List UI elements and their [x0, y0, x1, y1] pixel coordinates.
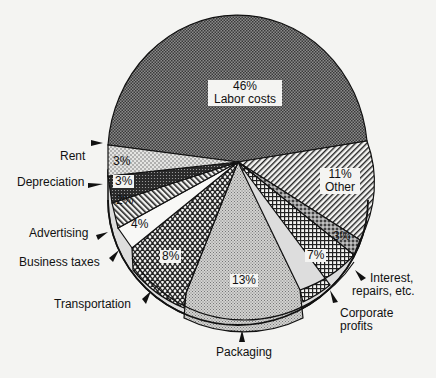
interest-line2: repairs, etc.	[352, 285, 415, 298]
labor-name: Labor costs	[210, 93, 280, 106]
packaging-pct: 13%	[230, 274, 258, 287]
label-other: 11% Other	[320, 168, 360, 194]
callout-transportation: Transportation	[54, 298, 131, 311]
transport-pct: 8%	[160, 250, 181, 263]
callout-advertising: Advertising	[29, 227, 88, 240]
callout-depreciation: Depreciation	[17, 176, 84, 189]
profits-line2: profits	[340, 320, 393, 333]
callout-business-taxes: Business taxes	[19, 256, 100, 269]
other-name: Other	[322, 181, 358, 194]
label-labor-costs: 46% Labor costs	[208, 80, 282, 106]
callout-interest: Interest, repairs, etc.	[352, 272, 415, 298]
deprec-pct: 3%	[113, 175, 134, 188]
profits-pct: 7%	[305, 249, 326, 262]
rent-pct: 3%	[113, 155, 130, 168]
callout-corporate-profits: Corporate profits	[340, 307, 393, 333]
callout-rent: Rent	[60, 150, 85, 163]
interest-pct: 3%	[333, 230, 350, 243]
callout-packaging: Packaging	[216, 346, 272, 359]
advert-pct: 2%	[116, 194, 133, 207]
taxes-pct: 4%	[131, 218, 148, 231]
